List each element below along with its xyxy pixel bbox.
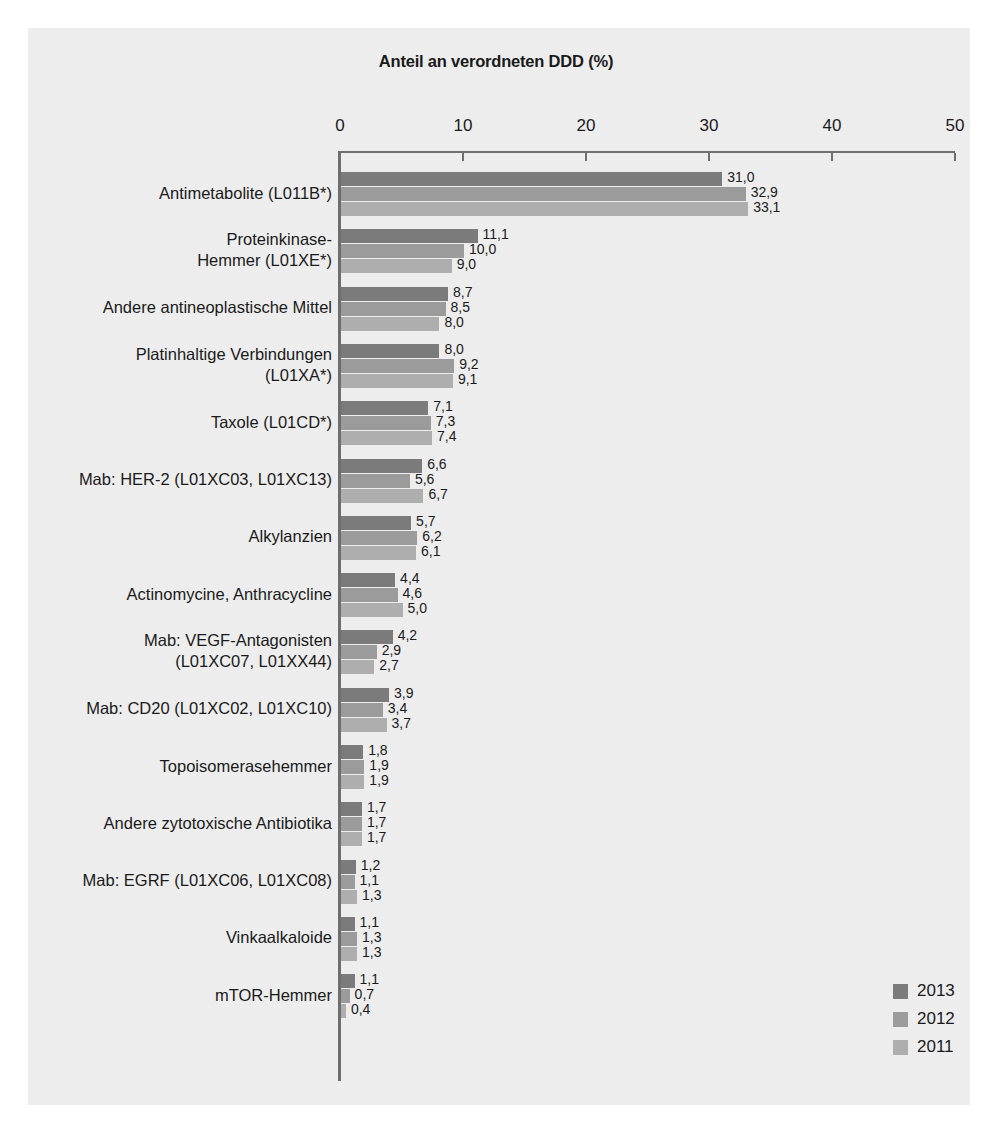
bar-value-label: 11,1 <box>483 226 509 242</box>
bar-2013[interactable] <box>341 802 362 816</box>
bar-2012[interactable] <box>341 474 410 488</box>
bar-group: Taxole (L01CD*)7,17,37,4 <box>0 401 998 445</box>
bar-2011[interactable] <box>341 775 364 789</box>
bar-group: Vinkaalkaloide1,11,31,3 <box>0 917 998 961</box>
legend-item-2013[interactable]: 2013 <box>893 977 955 1005</box>
bar-row: 5,7 <box>341 516 411 530</box>
bar-group: Alkylanzien5,76,26,1 <box>0 516 998 560</box>
bar-2011[interactable] <box>341 890 357 904</box>
bar-value-label: 1,8 <box>368 742 387 758</box>
bar-2011[interactable] <box>341 259 452 273</box>
bar-row: 2,9 <box>341 645 377 659</box>
bar-value-label: 6,6 <box>427 456 446 472</box>
bar-group: Topoisomerasehemmer1,81,91,9 <box>0 745 998 789</box>
bar-group: Platinhaltige Verbindungen (L01XA*)8,09,… <box>0 344 998 388</box>
bar-2013[interactable] <box>341 573 395 587</box>
bar-2011[interactable] <box>341 431 432 445</box>
bar-row: 9,1 <box>341 374 453 388</box>
bar-2011[interactable] <box>341 489 423 503</box>
bar-row: 6,7 <box>341 489 423 503</box>
bar-value-label: 32,9 <box>751 184 778 200</box>
bar-2012[interactable] <box>341 932 357 946</box>
bar-row: 8,7 <box>341 287 448 301</box>
bar-group: Mab: HER-2 (L01XC03, L01XC13)6,65,66,7 <box>0 459 998 503</box>
bar-row: 3,4 <box>341 703 383 717</box>
bar-value-label: 8,0 <box>444 314 463 330</box>
bar-value-label: 1,9 <box>369 757 388 773</box>
bar-value-label: 6,7 <box>428 486 447 502</box>
bar-row: 1,3 <box>341 932 357 946</box>
bar-2011[interactable] <box>341 317 439 331</box>
bar-2011[interactable] <box>341 660 374 674</box>
bar-2013[interactable] <box>341 401 428 415</box>
bar-2013[interactable] <box>341 974 355 988</box>
bar-2013[interactable] <box>341 516 411 530</box>
bar-row: 8,0 <box>341 317 439 331</box>
bar-row: 11,1 <box>341 229 478 243</box>
bar-2012[interactable] <box>341 187 746 201</box>
bar-2011[interactable] <box>341 603 403 617</box>
bar-2013[interactable] <box>341 745 363 759</box>
category-label: Mab: EGRF (L01XC06, L01XC08) <box>12 870 332 891</box>
bar-2013[interactable] <box>341 172 722 186</box>
bar-2012[interactable] <box>341 588 398 602</box>
bar-2013[interactable] <box>341 917 355 931</box>
bar-2012[interactable] <box>341 703 383 717</box>
bar-row: 8,0 <box>341 344 439 358</box>
bar-2012[interactable] <box>341 989 350 1003</box>
bar-value-label: 5,7 <box>416 513 435 529</box>
bar-group: Andere zytotoxische Antibiotika1,71,71,7 <box>0 802 998 846</box>
bar-value-label: 1,3 <box>362 944 381 960</box>
bar-2013[interactable] <box>341 287 448 301</box>
bar-2012[interactable] <box>341 302 446 316</box>
bar-group: Proteinkinase- Hemmer (L01XE*)11,110,09,… <box>0 229 998 273</box>
bar-value-label: 7,3 <box>436 413 455 429</box>
category-label: Antimetabolite (L011B*) <box>12 183 332 204</box>
bar-2011[interactable] <box>341 718 387 732</box>
bar-value-label: 1,1 <box>360 872 379 888</box>
bar-row: 7,4 <box>341 431 432 445</box>
bar-2011[interactable] <box>341 202 748 216</box>
bar-value-label: 1,1 <box>360 971 379 987</box>
bar-row: 1,1 <box>341 917 355 931</box>
bar-2013[interactable] <box>341 459 422 473</box>
legend-label: 2012 <box>917 1009 955 1029</box>
bar-2012[interactable] <box>341 817 362 831</box>
bar-2011[interactable] <box>341 374 453 388</box>
bar-value-label: 31,0 <box>727 169 754 185</box>
bar-2011[interactable] <box>341 546 416 560</box>
bar-row: 2,7 <box>341 660 374 674</box>
bar-2011[interactable] <box>341 1004 346 1018</box>
bar-2012[interactable] <box>341 416 431 430</box>
bar-2013[interactable] <box>341 344 439 358</box>
bar-2013[interactable] <box>341 860 356 874</box>
bar-2012[interactable] <box>341 359 454 373</box>
bar-value-label: 5,0 <box>408 600 427 616</box>
legend-item-2012[interactable]: 2012 <box>893 1005 955 1033</box>
bar-2011[interactable] <box>341 832 362 846</box>
bar-2012[interactable] <box>341 531 417 545</box>
bar-row: 1,1 <box>341 974 355 988</box>
legend-item-2011[interactable]: 2011 <box>893 1033 955 1061</box>
bar-group: Mab: VEGF-Antagonisten (L01XC07, L01XX44… <box>0 630 998 674</box>
category-label: Mab: VEGF-Antagonisten (L01XC07, L01XX44… <box>12 630 332 672</box>
bar-2012[interactable] <box>341 760 364 774</box>
bar-2012[interactable] <box>341 875 355 889</box>
bar-2012[interactable] <box>341 244 464 258</box>
bar-row: 6,1 <box>341 546 416 560</box>
bar-row: 7,3 <box>341 416 431 430</box>
bar-2012[interactable] <box>341 645 377 659</box>
bar-value-label: 8,7 <box>453 284 472 300</box>
bar-group: Andere antineoplastische Mittel8,78,58,0 <box>0 287 998 331</box>
bar-group: Mab: CD20 (L01XC02, L01XC10)3,93,43,7 <box>0 688 998 732</box>
bar-value-label: 7,4 <box>437 428 456 444</box>
bar-2011[interactable] <box>341 947 357 961</box>
bar-value-label: 6,1 <box>421 543 440 559</box>
bar-2013[interactable] <box>341 229 478 243</box>
bar-value-label: 1,7 <box>367 814 386 830</box>
bar-value-label: 8,0 <box>444 341 463 357</box>
bar-value-label: 1,3 <box>362 887 381 903</box>
category-label: Actinomycine, Anthracycline <box>12 584 332 605</box>
bar-row: 1,3 <box>341 947 357 961</box>
bar-2013[interactable] <box>341 688 389 702</box>
